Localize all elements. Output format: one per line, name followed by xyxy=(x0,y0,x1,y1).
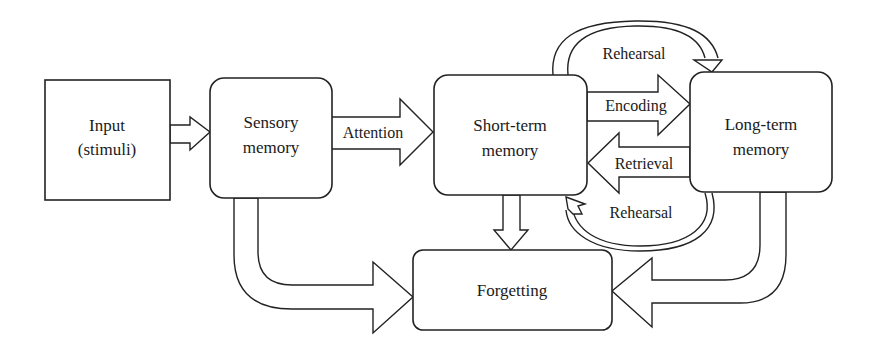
rehearsal-bottom-label: Rehearsal xyxy=(609,204,673,221)
memory-model-diagram: Input (stimuli) Sensory memory Short-ter… xyxy=(0,0,875,352)
input-label: Input xyxy=(89,116,125,135)
input-to-sensory-arrow xyxy=(170,117,210,150)
rehearsal-bottom-loop xyxy=(566,193,714,251)
long-term-sublabel: memory xyxy=(733,140,790,159)
attention-label: Attention xyxy=(343,124,403,141)
forgetting-label: Forgetting xyxy=(477,281,548,300)
encoding-label: Encoding xyxy=(605,97,666,115)
stm-to-forgetting-arrow xyxy=(494,195,528,250)
sensory-label: Sensory xyxy=(244,113,299,132)
retrieval-label: Retrieval xyxy=(615,155,674,172)
long-term-label: Long-term xyxy=(725,115,798,134)
short-term-sublabel: memory xyxy=(482,141,539,160)
sensory-to-forgetting-arrow xyxy=(234,198,413,333)
input-sublabel: (stimuli) xyxy=(78,140,137,159)
short-term-memory-box xyxy=(434,75,587,195)
rehearsal-top-label: Rehearsal xyxy=(602,45,666,62)
short-term-label: Short-term xyxy=(473,116,547,135)
sensory-sublabel: memory xyxy=(243,138,300,157)
